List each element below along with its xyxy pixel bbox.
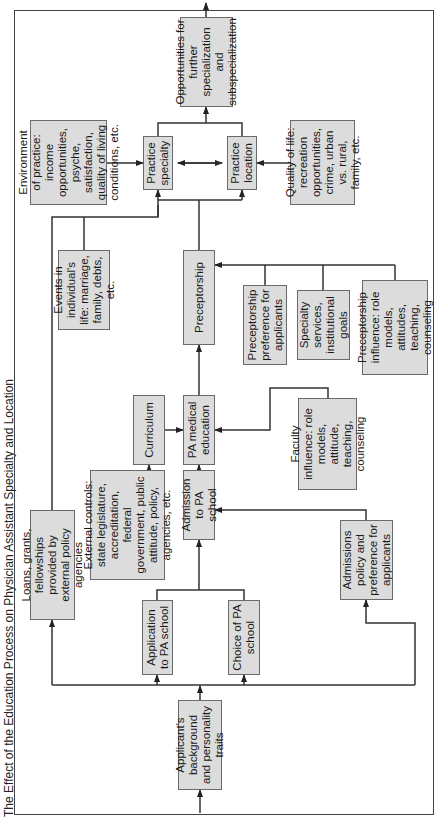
practice-specialty-box: Practice specialty bbox=[143, 136, 173, 190]
preceptorship-influence-box: Preceptorship influence: role models, at… bbox=[362, 280, 428, 375]
application-box: Application to PA school bbox=[142, 600, 173, 675]
diagram-canvas: The Effect of the Education Process on P… bbox=[0, 0, 438, 823]
quality-of-life-box: Quality of life: recreation opportunitie… bbox=[290, 120, 355, 205]
loans-box: Loans, grants, fellowships provided by e… bbox=[30, 510, 75, 620]
preceptorship-box: Preceptorship bbox=[183, 250, 215, 345]
preceptorship-preference-box: Preceptorship preference for applicants bbox=[243, 285, 287, 365]
pa-medical-education-box: PA medical education bbox=[183, 395, 215, 465]
curriculum-box: Curriculum bbox=[133, 395, 165, 465]
admissions-policy-box: Admissions policy and preference for app… bbox=[340, 520, 393, 600]
choice-box: Choice of PA school bbox=[228, 600, 260, 675]
applicant-box: Applicant's background and personality t… bbox=[178, 700, 222, 790]
practice-location-box: Practice location bbox=[227, 136, 257, 190]
specialty-services-box: Specialty services, institutional goals bbox=[297, 290, 350, 360]
opportunities-box: Opportunities for further specialization… bbox=[180, 17, 233, 107]
faculty-influence-box: Faculty influence: role models, attitude… bbox=[298, 398, 357, 490]
admission-box: Admission to PA school bbox=[183, 470, 215, 540]
environment-box: Environment of practice: income opportun… bbox=[30, 120, 107, 205]
events-box: Events in individual's life: marriage, f… bbox=[58, 250, 110, 330]
external-controls-box: External controls: state legislature, ac… bbox=[90, 470, 165, 580]
